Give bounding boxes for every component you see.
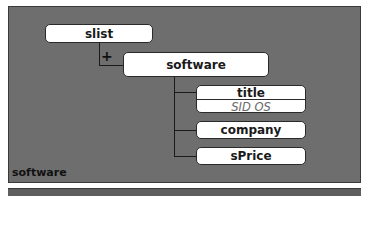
connector-company bbox=[174, 130, 196, 131]
node-software-label: software bbox=[166, 58, 226, 72]
node-company-label: company bbox=[221, 123, 282, 137]
connector-title bbox=[174, 92, 196, 93]
connector-slist-vertical bbox=[99, 42, 100, 66]
connector-software-vertical bbox=[174, 76, 175, 157]
node-sprice-label: sPrice bbox=[230, 149, 271, 163]
node-title[interactable]: title SID OS bbox=[196, 85, 306, 113]
connector-slist-horizontal bbox=[99, 65, 123, 66]
next-panel-edge bbox=[8, 188, 361, 196]
expand-plus-icon[interactable]: + bbox=[101, 49, 113, 63]
node-title-label: title bbox=[197, 86, 305, 100]
connector-sprice bbox=[174, 156, 196, 157]
node-sprice[interactable]: sPrice bbox=[196, 147, 306, 165]
node-company[interactable]: company bbox=[196, 121, 306, 139]
node-software[interactable]: software bbox=[123, 52, 269, 77]
panel-caption: software bbox=[12, 166, 67, 179]
node-slist-label: slist bbox=[85, 27, 113, 41]
node-title-value: SID OS bbox=[231, 100, 271, 113]
node-slist[interactable]: slist bbox=[45, 24, 153, 43]
